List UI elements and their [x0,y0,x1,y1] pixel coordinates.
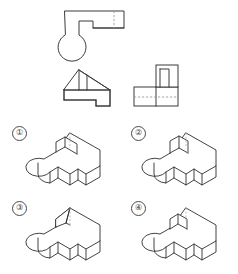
front-view-base [64,90,110,106]
option-4-figure[interactable] [148,201,238,271]
option-2-front-wall [194,174,202,185]
option-4-front-wall [194,249,202,260]
option-marker-2[interactable]: ② [131,126,146,141]
option-1-notch-wall-bottom [58,174,70,185]
top-view-outline [58,11,124,61]
top-view [62,8,128,58]
drawing-page: ① ② [0,0,238,274]
option-2-figure[interactable] [148,126,238,196]
option-3-figure[interactable] [32,201,122,271]
option-2-notch-wall-bottom [174,174,186,185]
option-marker-4[interactable]: ④ [131,201,146,216]
front-view [62,62,120,108]
option-3-front-wall [78,249,86,260]
option-1-figure[interactable] [32,126,122,196]
option-marker-1[interactable]: ① [12,126,27,141]
option-3-notch-wall-bottom [58,249,70,260]
side-view-upper-block [156,65,178,87]
side-view [132,62,186,108]
option-4-notch-wall-bottom [174,249,186,260]
option-1-front-wall [78,174,86,185]
option-marker-3[interactable]: ③ [12,201,27,216]
